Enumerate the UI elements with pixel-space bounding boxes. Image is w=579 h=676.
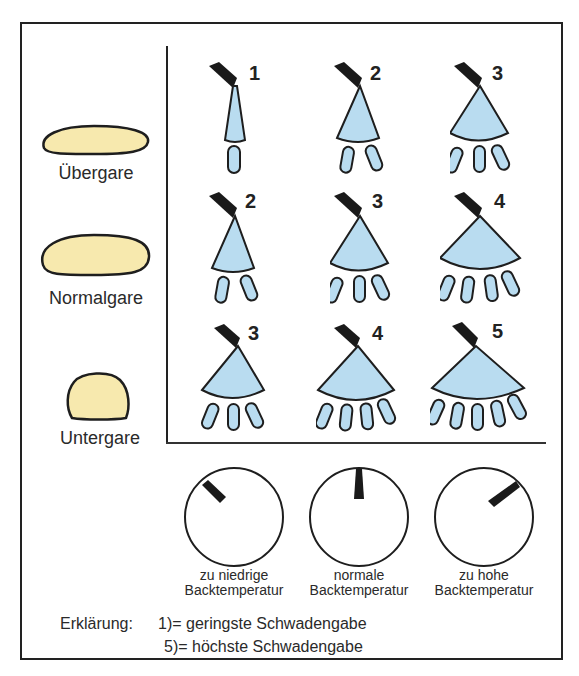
steam-cell-level-1: 1 [205,58,315,183]
steam-level-number: 3 [372,190,383,213]
steam-cell-level-3: 3 [330,188,440,313]
steam-level-number: 2 [245,190,256,213]
steam-level-number: 3 [248,322,259,345]
steam-nozzle-icon [450,58,560,183]
steam-level-number: 4 [372,322,383,345]
steam-cell-level-3: 3 [200,320,310,445]
label-overproofed: Übergare [26,163,166,184]
loaf-normal-icon [38,227,154,281]
steam-cell-level-5: 5 [430,320,540,445]
legend-line-1: 1)= geringste Schwadengabe [158,615,367,633]
steam-nozzle-icon [330,58,440,183]
dial-label-low: zu niedrige Backtemperatur [164,568,304,598]
steam-cell-level-2: 2 [205,188,315,313]
steam-cell-level-4: 4 [316,320,426,445]
temperature-dial-normal-icon [307,465,411,569]
dial-label-normal: normale Backtemperatur [289,568,429,598]
steam-level-number: 2 [370,62,381,85]
temperature-dial-high-icon [432,465,536,569]
steam-cell-level-3: 3 [450,58,560,183]
temperature-dial-low-icon [182,465,286,569]
steam-level-number: 3 [492,62,503,85]
steam-level-number: 4 [494,190,505,213]
loaf-overproofed-icon [38,118,154,160]
steam-level-number: 5 [492,320,503,343]
dial-label-high: zu hohe Backtemperatur [414,568,554,598]
legend-title: Erklärung: [60,615,133,633]
vertical-divider [166,46,168,444]
steam-cell-level-2: 2 [330,58,440,183]
label-normal: Normalgare [26,288,166,309]
label-underproofed: Untergare [30,428,170,449]
steam-nozzle-icon [316,320,426,445]
steam-level-number: 1 [249,62,260,85]
legend-line-2: 5)= höchste Schwadengabe [164,638,363,656]
loaf-underproofed-icon [64,368,134,424]
steam-cell-level-4: 4 [440,188,550,313]
steam-nozzle-icon [330,188,440,313]
steam-nozzle-icon [205,188,315,313]
steam-nozzle-icon [430,320,550,445]
